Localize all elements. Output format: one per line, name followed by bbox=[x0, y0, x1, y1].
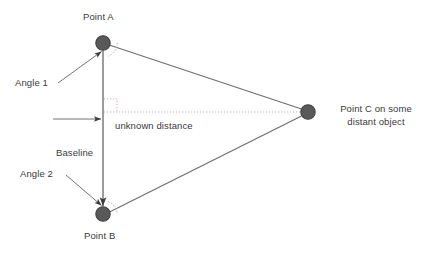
diagram-vector-layer bbox=[0, 0, 426, 261]
angle-1-pointer bbox=[58, 52, 102, 84]
unknown-distance-label: unknown distance bbox=[115, 120, 193, 132]
diagram-canvas: Point A Point B Point C on some distant … bbox=[0, 0, 426, 261]
angle-2-pointer bbox=[66, 175, 102, 206]
angle-1-label: Angle 1 bbox=[15, 77, 48, 89]
right-angle-marker-icon bbox=[104, 99, 117, 112]
point-c-node[interactable] bbox=[301, 105, 315, 119]
point-a-node[interactable] bbox=[96, 36, 110, 50]
point-b-label: Point B bbox=[84, 230, 115, 242]
point-c-label: Point C on some distant object bbox=[331, 103, 421, 128]
angle-2-label: Angle 2 bbox=[20, 168, 53, 180]
line-a-to-c bbox=[110, 45, 302, 109]
baseline-label: Baseline bbox=[56, 147, 93, 159]
point-a-label: Point A bbox=[83, 11, 114, 23]
point-b-node[interactable] bbox=[96, 207, 110, 221]
